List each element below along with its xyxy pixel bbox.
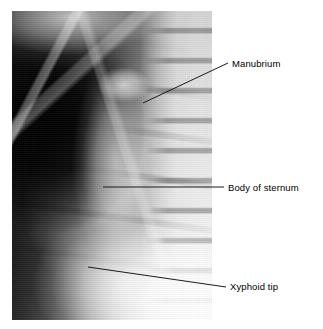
figure-container: Manubrium Body of sternum Xyphoid tip — [0, 0, 323, 329]
annotation-label-manubrium: Manubrium — [232, 58, 280, 69]
film-grain — [12, 11, 212, 320]
annotation-label-body-of-sternum: Body of sternum — [228, 182, 299, 193]
xray-image — [12, 11, 212, 320]
annotation-label-xyphoid-tip: Xyphoid tip — [230, 281, 278, 292]
